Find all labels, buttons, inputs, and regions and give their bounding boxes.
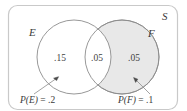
set-label-e: E [29,27,36,38]
region-value-intersection: .05 [91,54,103,64]
region-value-f-only: .05 [128,54,140,64]
caption-e-number: .2 [48,95,55,105]
venn-diagram-figure: S E F .15 .05 .05 P(E) = .2 P(F) = .1 [0,0,187,111]
caption-probability-f: P(F) = .1 [118,96,153,106]
caption-f-function: P(F) [118,95,136,105]
region-value-e-only: .15 [54,54,66,64]
caption-f-number: .1 [146,95,153,105]
caption-e-function: P(E) [20,95,38,105]
caption-probability-e: P(E) = .2 [20,96,55,106]
universal-set-label: S [162,11,168,22]
set-label-f: F [148,28,155,39]
